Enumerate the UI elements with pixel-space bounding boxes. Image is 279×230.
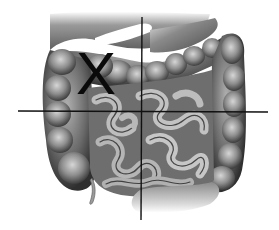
vertical-midline [141, 17, 142, 220]
appendix [90, 178, 95, 204]
intestine-illustration [0, 0, 279, 230]
descending-colon [209, 33, 246, 192]
quadrant-marker-x: X [76, 44, 116, 104]
horizontal-midline [18, 111, 268, 112]
intestine-quadrant-diagram: X [0, 0, 279, 230]
